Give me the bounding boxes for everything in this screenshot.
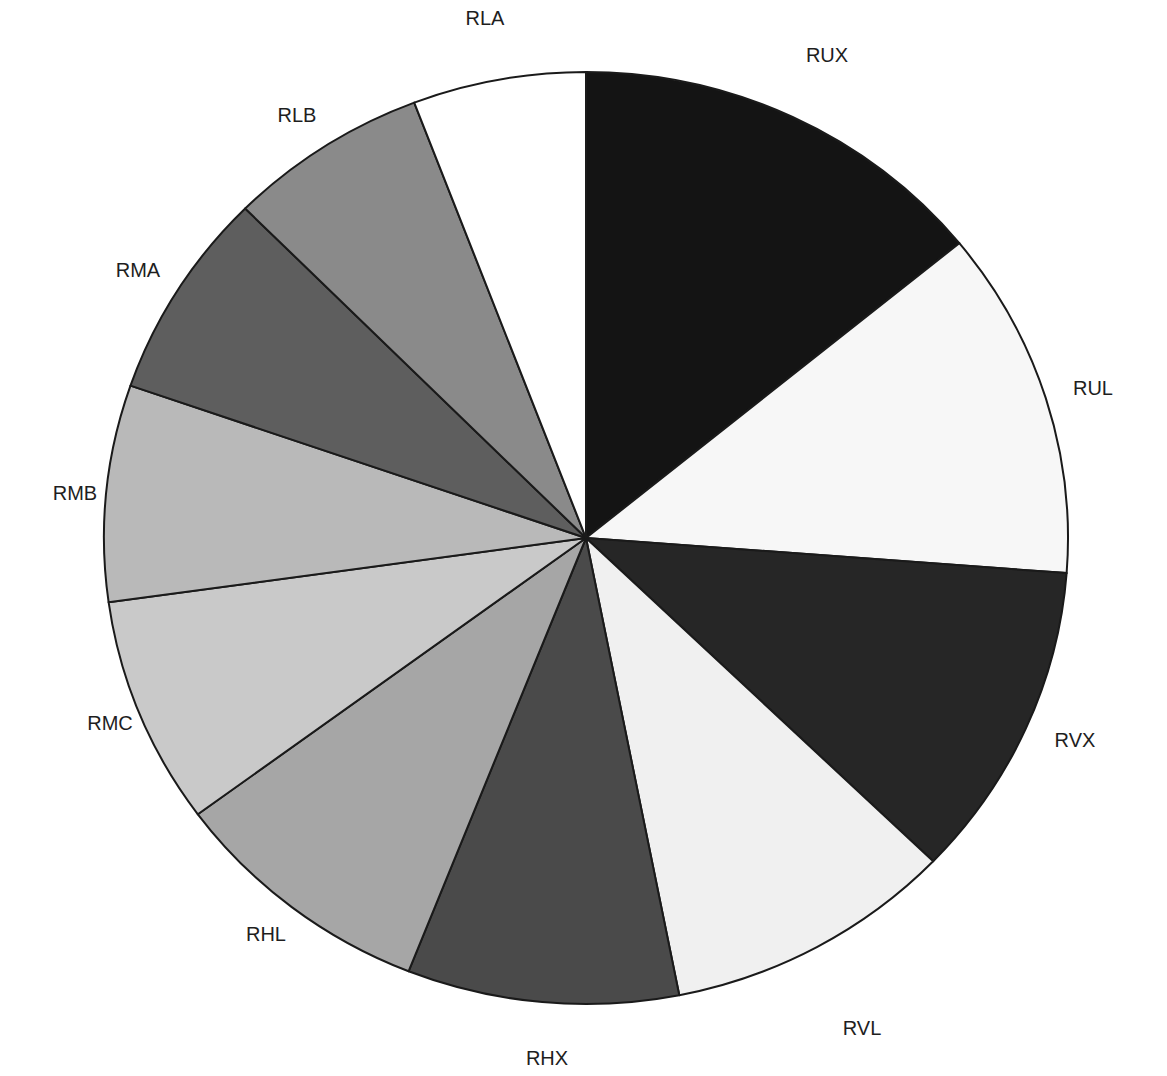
pie-chart: RUXRULRVXRVLRHXRHLRMCRMBRMARLBRLA xyxy=(0,0,1167,1076)
slice-label-rvl: RVL xyxy=(843,1017,882,1039)
slice-label-rlb: RLB xyxy=(278,104,317,126)
slice-label-rmb: RMB xyxy=(53,482,97,504)
pie-slices xyxy=(104,72,1068,1004)
slice-label-rux: RUX xyxy=(806,44,848,66)
slice-label-rvx: RVX xyxy=(1055,729,1096,751)
slice-label-rma: RMA xyxy=(116,259,161,281)
slice-label-rla: RLA xyxy=(466,7,506,29)
slice-label-rul: RUL xyxy=(1073,377,1113,399)
slice-label-rhx: RHX xyxy=(526,1047,568,1069)
slice-label-rmc: RMC xyxy=(87,712,133,734)
slice-label-rhl: RHL xyxy=(246,923,286,945)
